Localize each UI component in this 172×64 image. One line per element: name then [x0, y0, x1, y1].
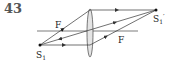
focus-left-point	[61, 29, 63, 31]
image-point	[155, 9, 158, 12]
source-point	[39, 44, 42, 47]
image-label: S1′	[153, 13, 165, 25]
focus-left-label: F	[55, 20, 61, 30]
convex-lens	[87, 9, 93, 57]
arrow-icon	[113, 22, 115, 23]
optics-diagram: F F S1 S1′	[0, 0, 172, 64]
source-label: S1	[36, 50, 46, 61]
focus-right-label: F	[118, 35, 124, 45]
arrow-icon	[104, 37, 106, 38]
arrow-icon	[60, 38, 62, 39]
